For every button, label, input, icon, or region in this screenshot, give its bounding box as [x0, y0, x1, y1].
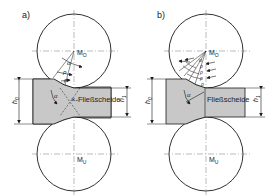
panel-a: a) α ρ ρ α ×-Fließscheide	[11, 10, 131, 195]
neutral-line-label-a: ×-Fließscheide	[71, 95, 120, 104]
svg-text:ρ: ρ	[200, 81, 204, 87]
svg-text:α: α	[54, 93, 58, 99]
entry-height-b: h0	[144, 97, 153, 104]
svg-text:α: α	[67, 60, 71, 66]
panel-b: b) α ρ ρ ρ ρ α Fließscheide	[144, 10, 265, 195]
rolling-diagram: a) α ρ ρ α ×-Fließscheide	[0, 0, 270, 195]
svg-text:ρ: ρ	[63, 77, 68, 83]
entry-height-a: h0	[11, 97, 20, 104]
svg-text:α: α	[187, 92, 191, 98]
panel-a-label: a)	[22, 10, 30, 20]
panel-b-label: b)	[157, 10, 165, 20]
svg-text:ρ: ρ	[62, 69, 67, 75]
neutral-line-label-b: Fließscheide	[207, 95, 250, 104]
exit-height-b: h1	[252, 95, 261, 102]
